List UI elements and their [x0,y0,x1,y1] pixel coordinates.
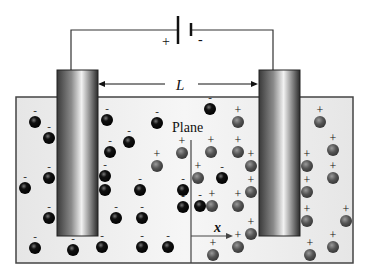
svg-text:-: - [140,229,144,241]
svg-text:+: + [235,103,242,117]
plane-label: Plane [172,120,203,135]
svg-text:-: - [105,102,109,114]
svg-text:-: - [47,120,51,132]
svg-text:+: + [248,215,255,229]
svg-text:+: + [330,131,337,145]
svg-text:-: - [127,124,131,136]
svg-text:-: - [181,172,185,184]
svg-text:+: + [343,202,350,216]
svg-text:+: + [317,103,324,117]
circuit-wire-right [191,30,273,70]
svg-text:+: + [304,202,311,216]
svg-text:-: - [166,229,170,241]
svg-text:+: + [330,228,337,242]
svg-text:+: + [208,133,215,147]
svg-text:+: + [330,159,337,173]
x-axis-label: x [213,220,221,235]
svg-text:+: + [154,147,161,161]
svg-text:-: - [33,104,37,116]
electrolysis-diagram: + - L Plane x ------------------------++… [0,0,368,280]
svg-text:+: + [307,236,314,250]
distance-label: L [175,77,184,93]
svg-text:+: + [235,187,242,201]
svg-text:+: + [195,159,202,173]
battery-icon [178,16,191,44]
svg-text:+: + [235,228,242,242]
svg-text:+: + [235,133,242,147]
battery-minus-label: - [198,32,203,47]
svg-text:-: - [23,170,27,182]
svg-text:+: + [248,147,255,161]
svg-text:+: + [210,236,217,250]
svg-text:-: - [155,105,159,117]
battery-plus-label: + [162,34,170,49]
svg-text:-: - [100,229,104,241]
svg-text:-: - [103,158,107,170]
cathode-electrode [259,70,300,236]
svg-text:-: - [220,160,224,172]
svg-text:-: - [140,200,144,212]
svg-text:-: - [108,134,112,146]
svg-text:-: - [198,188,202,200]
svg-text:-: - [138,172,142,184]
svg-text:-: - [208,91,212,103]
svg-text:-: - [33,230,37,242]
svg-text:+: + [248,173,255,187]
svg-text:+: + [304,147,311,161]
svg-text:-: - [103,172,107,184]
svg-text:+: + [304,173,311,187]
svg-text:-: - [47,160,51,172]
svg-text:+: + [179,134,186,148]
anode-electrode [57,70,98,236]
svg-text:-: - [47,200,51,212]
svg-text:-: - [114,200,118,212]
svg-text:+: + [209,187,216,201]
